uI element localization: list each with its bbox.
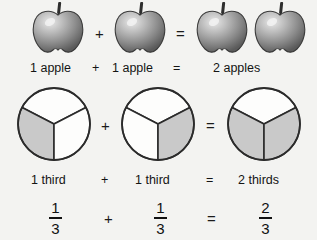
apple-row-equals-operator: =	[176, 26, 185, 41]
fraction-denominator: 3	[259, 220, 271, 236]
worksheet-canvas: + =	[0, 0, 317, 240]
apple-icon	[31, 2, 85, 54]
apple-body-icon	[195, 10, 249, 54]
apple-word-equation: 1 apple + 1 apple = 2 apples	[0, 58, 317, 78]
apple-illustration-row: + =	[0, 0, 317, 58]
apple-icon	[253, 2, 307, 54]
fraction-one-third-right: 1 3	[154, 200, 167, 236]
apple-words-result: 2 apples	[213, 62, 260, 75]
pie-illustration-row: + =	[0, 84, 317, 168]
fraction-words-right: 1 third	[135, 174, 170, 187]
apple-words-plus: +	[92, 62, 99, 75]
fraction-words-left: 1 third	[31, 174, 66, 187]
fraction-numerator: 2	[259, 200, 271, 216]
fraction-bar	[154, 217, 167, 219]
pie-two-thirds	[226, 86, 302, 162]
apple-icon	[113, 2, 167, 54]
fraction-symbols-plus: +	[104, 211, 113, 226]
apple-words-left: 1 apple	[30, 62, 71, 75]
apple-body-icon	[113, 10, 167, 54]
fraction-words-equals: =	[206, 174, 213, 187]
apple-icon	[195, 2, 249, 54]
apple-row-plus-operator: +	[95, 26, 104, 41]
fraction-bar	[49, 217, 62, 219]
fraction-two-thirds: 2 3	[259, 200, 272, 236]
fraction-symbol-equation: 1 3 + 1 3 = 2 3	[0, 198, 317, 240]
fraction-words-plus: +	[101, 174, 108, 187]
apple-body-icon	[253, 10, 307, 54]
fraction-bar	[259, 217, 272, 219]
apple-words-equals: =	[173, 62, 180, 75]
fraction-words-result: 2 thirds	[238, 174, 279, 187]
pie-row-equals-operator: =	[206, 118, 215, 133]
fraction-numerator: 1	[49, 200, 61, 216]
pie-one-third-left	[16, 86, 92, 162]
apple-words-right: 1 apple	[112, 62, 153, 75]
apple-body-icon	[31, 10, 85, 54]
fraction-numerator: 1	[154, 200, 166, 216]
pie-one-third-right	[120, 86, 196, 162]
fraction-denominator: 3	[154, 220, 166, 236]
fraction-one-third-left: 1 3	[49, 200, 62, 236]
pie-row-plus-operator: +	[101, 118, 110, 133]
fraction-word-equation: 1 third + 1 third = 2 thirds	[0, 168, 317, 190]
fraction-symbols-equals: =	[207, 211, 216, 226]
fraction-denominator: 3	[49, 220, 61, 236]
